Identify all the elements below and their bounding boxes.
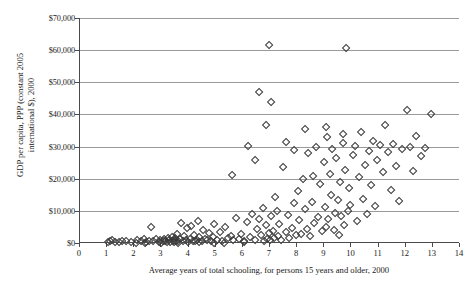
gridline [79, 82, 459, 83]
plot-frame: $0$10,000$20,000$30,000$40,000$50,000$60… [79, 18, 459, 243]
data-point [295, 216, 304, 225]
data-point [255, 88, 264, 97]
data-point [147, 223, 156, 232]
data-point [282, 137, 291, 146]
x-axis-line [79, 242, 459, 243]
data-point [416, 152, 425, 161]
data-point [306, 232, 315, 241]
data-point [243, 218, 252, 227]
data-point [300, 205, 309, 214]
data-point [341, 165, 350, 174]
x-tick-label: 6 [240, 248, 244, 258]
data-point [427, 110, 436, 119]
data-point [357, 128, 366, 137]
data-point [251, 156, 260, 165]
y-tick-label: $40,000 [49, 110, 75, 119]
data-point [395, 197, 404, 206]
gridline [79, 211, 459, 212]
data-point [376, 141, 385, 150]
x-tick-label: 14 [455, 248, 464, 258]
data-point [365, 146, 374, 155]
x-tick-mark [432, 243, 433, 247]
x-tick-label: 7 [267, 248, 271, 258]
data-point [339, 220, 348, 229]
data-point [210, 220, 219, 229]
data-point [337, 212, 346, 221]
data-point [265, 40, 274, 49]
data-point [332, 153, 341, 162]
x-tick-label: 4 [185, 248, 189, 258]
data-point [283, 211, 292, 220]
x-tick-label: 13 [428, 248, 437, 258]
y-axis-label-line2: international $), 2000 [26, 15, 37, 215]
scatter-chart-figure: $0$10,000$20,000$30,000$40,000$50,000$60… [0, 0, 470, 285]
data-point [335, 231, 344, 240]
data-point [308, 198, 317, 207]
x-tick-mark [459, 243, 460, 247]
y-axis-label: GDP per capita, PPP (constant 2005 inter… [15, 15, 37, 215]
data-point [321, 123, 330, 132]
x-tick-mark [296, 243, 297, 247]
gridline [79, 114, 459, 115]
y-axis-label-line1: GDP per capita, PPP (constant 2005 [15, 15, 26, 215]
data-point [244, 142, 253, 151]
data-point [293, 187, 302, 196]
y-tick-label: $60,000 [49, 46, 75, 55]
x-tick-mark [350, 243, 351, 247]
data-point [367, 181, 376, 190]
x-tick-label: 12 [400, 248, 409, 258]
data-point [358, 194, 367, 203]
y-tick-label: $30,000 [49, 142, 75, 151]
data-point [384, 147, 393, 156]
y-tick-label: $20,000 [49, 174, 75, 183]
data-point [348, 151, 357, 160]
data-point [412, 132, 421, 141]
data-point [275, 220, 284, 229]
x-tick-label: 0 [77, 248, 81, 258]
data-point [350, 142, 359, 151]
x-tick-label: 11 [373, 248, 381, 258]
data-point [386, 186, 395, 195]
x-axis-label: Average years of total schooling, for pe… [79, 265, 459, 275]
data-point [339, 130, 348, 139]
data-point [316, 180, 325, 189]
data-point [352, 217, 361, 226]
x-tick-label: 1 [104, 248, 108, 258]
y-tick-label: $0 [67, 239, 75, 248]
data-point [345, 184, 354, 193]
data-point [301, 124, 310, 133]
y-tick-label: $50,000 [49, 78, 75, 87]
data-point [333, 195, 342, 204]
data-point [279, 163, 288, 172]
x-tick-label: 5 [213, 248, 217, 258]
data-point [392, 162, 401, 171]
data-point [271, 193, 280, 202]
x-tick-label: 2 [131, 248, 135, 258]
data-point [403, 105, 412, 114]
data-point [371, 202, 380, 211]
gridline [79, 50, 459, 51]
x-tick-label: 8 [294, 248, 298, 258]
data-point [194, 216, 203, 225]
data-point [262, 121, 271, 130]
data-point [325, 170, 334, 179]
data-point [378, 168, 387, 177]
data-point [405, 143, 414, 152]
y-tick-label: $70,000 [49, 14, 75, 23]
data-point [304, 149, 313, 158]
data-point [289, 199, 298, 208]
data-point [409, 167, 418, 176]
x-tick-mark [79, 243, 80, 247]
data-point [361, 161, 370, 170]
data-point [267, 98, 276, 107]
y-axis-line [79, 18, 80, 243]
gridline [79, 18, 459, 19]
data-point [355, 173, 364, 182]
plot-area: $0$10,000$20,000$30,000$40,000$50,000$60… [79, 18, 459, 243]
y-tick-label: $10,000 [49, 206, 75, 215]
x-tick-mark [405, 243, 406, 247]
data-point [323, 133, 332, 142]
x-tick-mark [323, 243, 324, 247]
data-point [232, 214, 241, 223]
gridline [79, 179, 459, 180]
